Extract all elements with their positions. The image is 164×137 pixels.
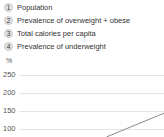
series-line-plot (0, 0, 164, 137)
chart: 1 Population 2 Prevalence of overweight … (0, 0, 164, 137)
rising-series-line (107, 113, 164, 137)
